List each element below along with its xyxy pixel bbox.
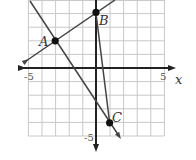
x-axis-label: x [175,72,183,87]
point-b-label: B [98,13,109,28]
x-min-tick: -5 [24,71,34,82]
point-c-label: C [112,110,122,125]
coordinate-plane: A B C -5 5 -5 x [0,0,196,160]
point-a [52,37,59,44]
x-max-tick: 5 [160,71,166,82]
line-ab [26,0,115,61]
y-min-tick: -5 [84,132,94,143]
point-a-label: A [38,34,48,49]
